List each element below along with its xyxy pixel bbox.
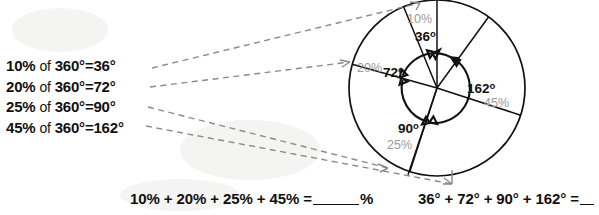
deg-sym-36: o xyxy=(430,28,436,39)
conversion-percent-25: 25% xyxy=(6,98,35,115)
conversion-of-25: of xyxy=(39,99,50,115)
percent-sum-answer-blank[interactable] xyxy=(313,191,359,205)
percent-sum-equation: 10% + 20% + 25% + 45% =% xyxy=(130,190,373,207)
degree-sum-equation: 36° + 72° + 90° + 162° = xyxy=(418,190,595,207)
pie-label-25-percent: 25% xyxy=(387,138,412,152)
conversion-result-20: 72° xyxy=(93,78,115,95)
deg-value-162: 162 xyxy=(467,81,490,96)
paper-smudge xyxy=(12,8,108,52)
leader-line-10-percent xyxy=(152,2,420,68)
pie-label-10-percent: 10% xyxy=(407,12,432,26)
conversion-row-10: 10% of 360°=36° xyxy=(6,56,156,77)
conversion-percent-45: 45% xyxy=(6,119,35,136)
pie-label-90-degrees: 90o xyxy=(398,120,419,136)
conversion-of-20: of xyxy=(39,79,50,95)
degree-sum-expression: 36° + 72° + 90° + 162° = xyxy=(418,190,579,207)
worksheet-page: 10% 20% 25% 45% 36o 72o 90o 162o xyxy=(0,0,599,215)
conversion-row-20: 20% of 360°=72° xyxy=(6,77,156,98)
deg-value-36: 36 xyxy=(415,29,431,44)
deg-value-72: 72 xyxy=(383,65,398,80)
conversion-of-45: of xyxy=(39,120,50,136)
percent-sum-unit: % xyxy=(360,190,373,207)
conversion-base-45: 360° xyxy=(55,119,85,136)
svg-text:90o: 90o xyxy=(398,120,419,136)
conversion-percent-20: 20% xyxy=(6,78,35,95)
pie-label-162-degrees: 162o xyxy=(467,80,496,96)
conversion-of-10: of xyxy=(39,58,50,74)
conversion-result-25: 90° xyxy=(93,98,115,115)
svg-text:162o: 162o xyxy=(467,80,496,96)
conversion-percent-10: 10% xyxy=(6,57,35,74)
arc-arrowhead-162-end xyxy=(429,116,437,124)
pie-spoke-36deg xyxy=(437,17,489,88)
deg-sym-72: o xyxy=(398,64,404,75)
paper-smudge xyxy=(180,120,320,180)
deg-sym-162: o xyxy=(490,80,496,91)
pie-label-36-degrees: 36o xyxy=(415,28,436,44)
conversion-base-20: 360° xyxy=(55,78,85,95)
pie-label-20-percent: 20% xyxy=(357,61,382,75)
percent-sum-expression: 10% + 20% + 25% + 45% = xyxy=(130,190,312,207)
pie-label-45-percent: 45% xyxy=(484,96,509,110)
deg-sym-90: o xyxy=(413,120,419,131)
conversion-row-25: 25% of 360°=90° xyxy=(6,97,156,118)
arc-arrow-90 xyxy=(402,80,428,122)
conversion-result-10: 36° xyxy=(93,57,115,74)
conversion-equation-list: 10% of 360°=36° 20% of 360°=72° 25% of 3… xyxy=(6,56,156,138)
conversion-base-10: 360° xyxy=(55,57,85,74)
conversion-result-45: 162° xyxy=(93,119,123,136)
degree-sum-answer-blank[interactable] xyxy=(580,191,594,205)
conversion-row-45: 45% of 360°=162° xyxy=(6,118,156,139)
svg-text:36o: 36o xyxy=(415,28,436,44)
conversion-base-25: 360° xyxy=(55,98,85,115)
deg-value-90: 90 xyxy=(398,121,413,136)
leader-line-20-percent xyxy=(150,60,350,87)
